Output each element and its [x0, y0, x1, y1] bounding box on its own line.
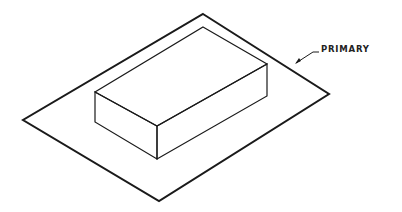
- primary-leader-line: [295, 52, 319, 64]
- isometric-diagram: [0, 0, 402, 212]
- primary-label: PRIMARY: [321, 44, 370, 54]
- arrowhead-icon: [295, 58, 301, 64]
- block-left-face: [95, 92, 157, 159]
- block-right-face: [157, 64, 267, 159]
- primary-plate: [23, 14, 329, 201]
